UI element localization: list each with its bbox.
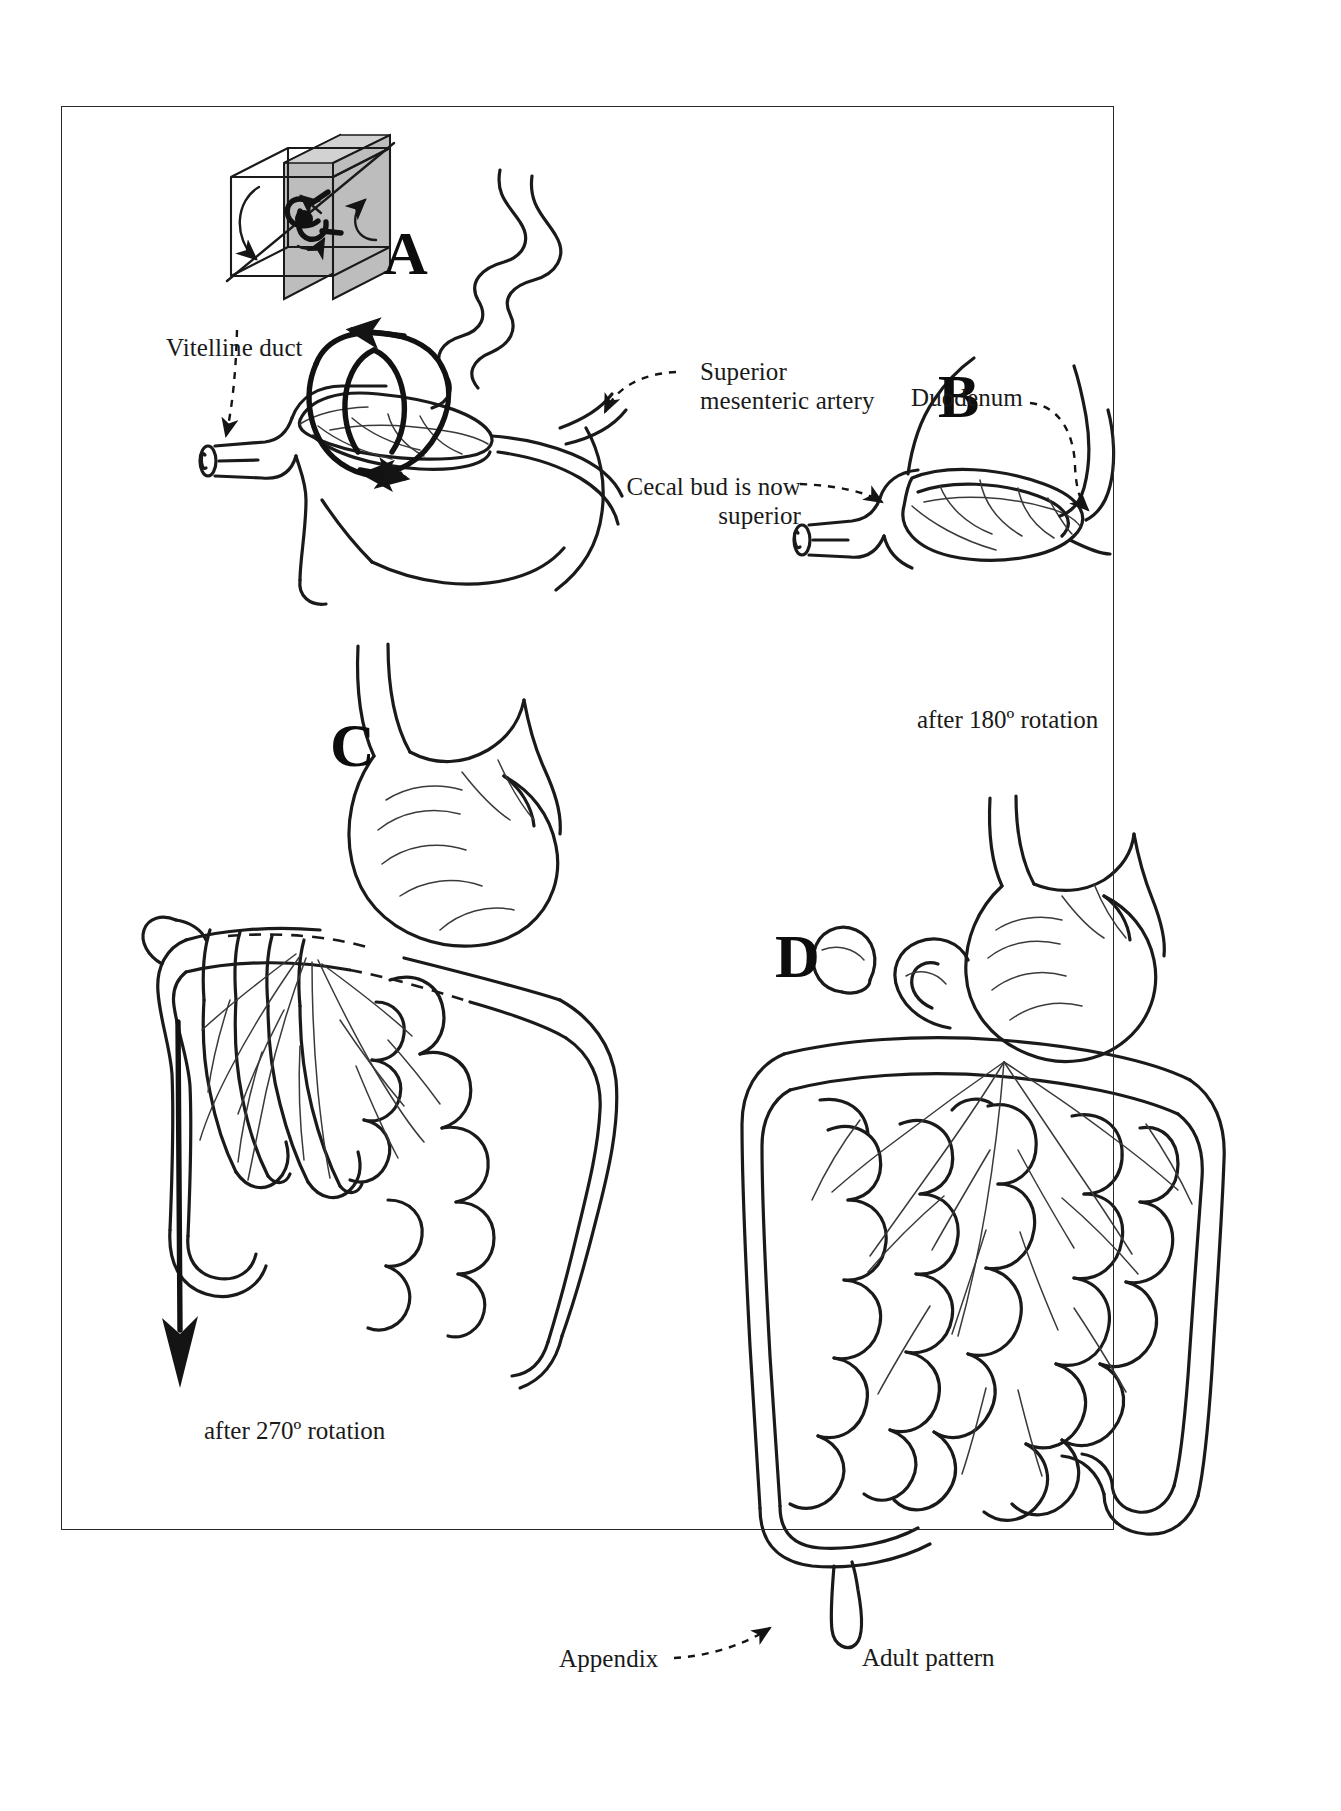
- label-appendix: Appendix: [559, 1644, 658, 1673]
- caption-rotation-270: after 270º rotation: [204, 1417, 385, 1445]
- leader-appendix: [674, 1628, 770, 1658]
- caption-adult-pattern: Adult pattern: [862, 1644, 995, 1672]
- figure-border: [61, 106, 1114, 1530]
- label-cecal-bud-line1: Cecal bud is now: [605, 472, 801, 501]
- panel-letter-a: A: [383, 222, 428, 284]
- figure-page: .ol{fill:none;stroke:#1a1a1a;stroke-widt…: [0, 0, 1341, 1811]
- label-vitelline-duct: Vitelline duct: [166, 333, 303, 362]
- label-cecal-bud-line2: superior: [605, 501, 801, 530]
- caption-rotation-180: after 180º rotation: [917, 706, 1098, 734]
- panel-letter-d: D: [775, 925, 820, 987]
- label-superior-mesenteric-artery-line2: mesenteric artery: [700, 386, 875, 415]
- panel-letter-c: C: [330, 714, 375, 776]
- label-superior-mesenteric-artery-line1: Superior: [700, 357, 787, 386]
- label-duodenum: Duodenum: [911, 383, 1023, 412]
